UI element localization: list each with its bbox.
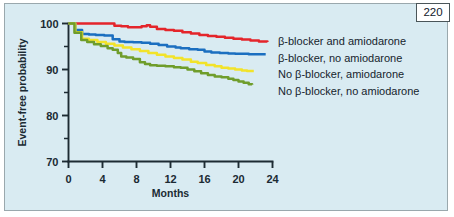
x-axis-tick-label: 0 <box>65 173 71 185</box>
page-number-badge: 220 <box>416 3 450 22</box>
legend-item-no-beta-blocker-amiodarone: No β-blocker, amiodarone <box>278 66 446 83</box>
series-line <box>69 24 268 42</box>
x-axis-title: Months <box>152 187 189 199</box>
x-axis-tick-label: 24 <box>266 173 279 185</box>
x-axis-tick-label: 16 <box>198 173 210 185</box>
y-axis-tick-label: 70 <box>46 156 58 168</box>
x-axis-tick-label: 4 <box>99 173 106 185</box>
series-line <box>69 24 254 71</box>
figure-container: 70809010004812162024 MonthsEvent-free pr… <box>0 0 454 217</box>
y-axis-tick-label: 90 <box>46 64 58 76</box>
legend-item-no-beta-blocker-no-amiodarone: No β-blocker, no amiodarone <box>278 83 446 100</box>
x-axis-tick-label: 12 <box>164 173 176 185</box>
legend-item-beta-blocker-no-amiodarone: β-blocker, no amiodarone <box>278 50 446 67</box>
series-curves-group <box>69 24 268 85</box>
legend-item-beta-blocker-and-amiodarone: β-blocker and amiodarone <box>278 33 446 50</box>
y-axis-tick-label: 100 <box>40 18 58 30</box>
axis-tick-labels-group: 70809010004812162024 <box>40 18 279 185</box>
chart-legend: β-blocker and amiodarone β-blocker, no a… <box>278 33 446 99</box>
x-axis-tick-label: 8 <box>133 173 139 185</box>
x-axis-tick-label: 20 <box>232 173 244 185</box>
y-axis-tick-label: 80 <box>46 110 58 122</box>
y-axis-title: Event-free probability <box>16 38 28 146</box>
